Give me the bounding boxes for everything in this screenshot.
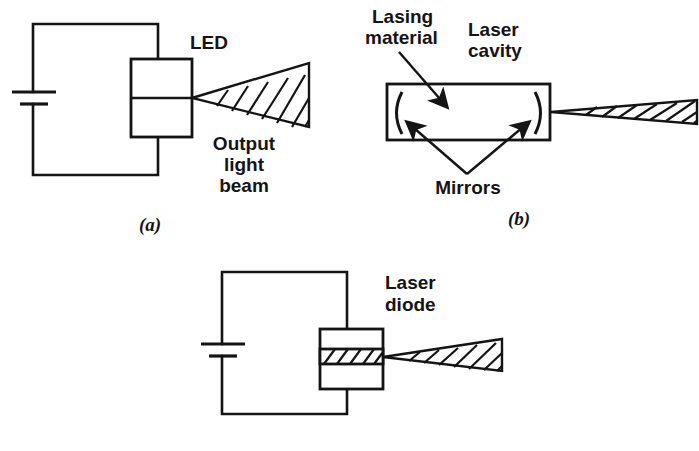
output-light-beam-label-line3: beam: [219, 175, 269, 196]
beam-cone-outline-a: [192, 63, 309, 127]
led-label: LED: [190, 32, 228, 53]
output-light-beam-label-line1: Output: [213, 133, 276, 154]
panel-a-caption: (a): [139, 214, 161, 236]
panel-b: Lasing material Laser cavity Mirrors (b): [365, 6, 697, 230]
led-output-beam: [192, 63, 309, 127]
panel-b-caption: (b): [508, 208, 530, 230]
laser-diode-label-line1: Laser: [385, 272, 436, 293]
laser-diode-label-line2: diode: [385, 294, 436, 315]
laser-diode-output-beam: [383, 339, 502, 371]
panel-a: LED Output light beam (a): [12, 24, 309, 236]
output-light-beam-label-line2: light: [224, 154, 265, 175]
panel-c: Laser diode: [201, 272, 502, 414]
panel-a-circuit: [12, 24, 192, 175]
panel-c-circuit: [201, 272, 383, 414]
laser-cavity-label-line1: Laser: [468, 19, 519, 40]
lasing-material-label-line2: material: [365, 27, 438, 48]
laser-diode-figure: LED Output light beam (a) Lasin: [0, 0, 699, 451]
laser-output-beam-b: [551, 100, 697, 124]
laser-cavity-label-line2: cavity: [468, 40, 522, 61]
lasing-material-label-line1: Lasing: [372, 6, 433, 27]
laser-cavity-box: [387, 84, 550, 140]
mirrors-label: Mirrors: [435, 177, 500, 198]
